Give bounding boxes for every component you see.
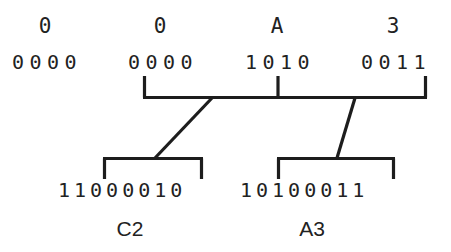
- diagonal-connector-left: [155, 98, 212, 158]
- diagram-canvas: 0 0 A 3 0000 0000 1010 0011 11000010 101…: [0, 0, 451, 252]
- connector-lines: [0, 0, 451, 252]
- diagonal-connector-right: [337, 98, 355, 158]
